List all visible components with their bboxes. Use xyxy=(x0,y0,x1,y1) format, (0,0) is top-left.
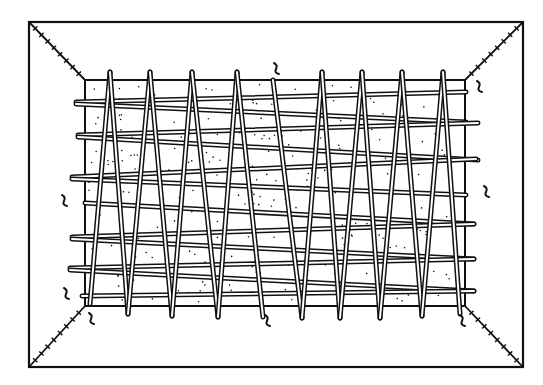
stipple-dot xyxy=(216,174,218,176)
stipple-dot xyxy=(174,148,176,150)
stipple-dot xyxy=(288,144,290,146)
stipple-dot xyxy=(263,135,265,137)
stipple-dot xyxy=(332,85,334,87)
stipple-dot xyxy=(273,236,275,238)
stipple-dot xyxy=(107,164,109,166)
stipple-dot xyxy=(378,234,380,236)
stipple-dot xyxy=(446,274,448,276)
stipple-dot xyxy=(206,152,208,154)
stipple-dot xyxy=(219,160,221,162)
stipple-dot xyxy=(448,278,450,280)
stipple-dot xyxy=(123,191,125,193)
stipple-dot xyxy=(385,158,387,160)
stipple-dot xyxy=(117,275,119,277)
stipple-dot xyxy=(88,189,90,191)
stipple-dot xyxy=(95,151,97,153)
stipple-dot xyxy=(111,245,113,247)
stipple-dot xyxy=(121,299,123,301)
stipple-dot xyxy=(274,134,276,136)
stipple-dot xyxy=(350,86,352,88)
stipple-dot xyxy=(256,103,258,105)
stipple-dot xyxy=(421,207,423,209)
stipple-dot xyxy=(295,207,297,209)
stipple-dot xyxy=(333,100,335,102)
stipple-dot xyxy=(339,148,341,150)
stipple-dot xyxy=(342,237,344,239)
stipple-dot xyxy=(373,101,375,103)
stipple-dot xyxy=(178,290,180,292)
stipple-dot xyxy=(259,196,261,198)
stipple-dot xyxy=(231,256,233,258)
stipple-dot xyxy=(306,179,308,181)
stipple-dot xyxy=(268,151,270,153)
stipple-dot xyxy=(157,227,159,229)
stipple-dot xyxy=(130,155,132,157)
stipple-dot xyxy=(119,115,121,117)
stipple-dot xyxy=(446,216,448,218)
stipple-dot xyxy=(107,160,109,162)
stipple-dot xyxy=(137,238,139,240)
stipple-dot xyxy=(420,230,422,232)
stipple-dot xyxy=(119,88,121,90)
stipple-dot xyxy=(217,237,219,239)
stipple-dot xyxy=(444,154,446,156)
stipple-dot xyxy=(174,220,176,222)
stipple-dot xyxy=(198,301,200,303)
stipple-dot xyxy=(387,173,389,175)
stipple-dot xyxy=(370,98,372,100)
stipple-dot xyxy=(191,160,193,162)
stipple-dot xyxy=(422,141,424,143)
lattice-illustration xyxy=(0,0,543,385)
stipple-dot xyxy=(217,134,219,136)
stipple-dot xyxy=(338,144,340,146)
stipple-dot xyxy=(382,113,384,115)
stipple-dot xyxy=(229,284,231,286)
stipple-dot xyxy=(433,271,435,273)
stipple-dot xyxy=(292,155,294,157)
stipple-dot xyxy=(121,160,123,162)
stipple-dot xyxy=(95,123,97,125)
stipple-dot xyxy=(340,120,342,122)
stipple-dot xyxy=(212,156,214,158)
stipple-dot xyxy=(355,223,357,225)
stipple-dot xyxy=(351,234,353,236)
stipple-dot xyxy=(317,177,319,179)
stipple-dot xyxy=(379,139,381,141)
stipple-dot xyxy=(438,295,440,297)
stipple-dot xyxy=(291,299,293,301)
stipple-dot xyxy=(253,194,255,196)
stipple-dot xyxy=(244,203,246,205)
stipple-dot xyxy=(294,88,296,90)
stipple-dot xyxy=(209,161,211,163)
stipple-dot xyxy=(401,300,403,302)
stipple-dot xyxy=(261,138,263,140)
stipple-dot xyxy=(121,114,123,116)
stipple-dot xyxy=(418,174,420,176)
stipple-dot xyxy=(194,254,196,256)
stipple-dot xyxy=(189,250,191,252)
stipple-dot xyxy=(208,118,210,120)
stipple-dot xyxy=(382,237,384,239)
stipple-dot xyxy=(199,290,201,292)
stipple-dot xyxy=(204,284,206,286)
stipple-dot xyxy=(192,190,194,192)
stipple-dot xyxy=(252,102,254,104)
stipple-dot xyxy=(266,174,268,176)
stipple-dot xyxy=(112,161,114,163)
stipple-dot xyxy=(230,103,232,105)
stipple-dot xyxy=(396,245,398,247)
stipple-dot xyxy=(342,224,344,226)
stipple-dot xyxy=(259,84,261,86)
stipple-dot xyxy=(396,298,398,300)
stipple-dot xyxy=(91,162,93,164)
stipple-dot xyxy=(151,257,153,259)
stipple-dot xyxy=(258,204,260,206)
stipple-dot xyxy=(371,129,373,131)
stipple-dot xyxy=(211,89,213,91)
stipple-dot xyxy=(145,252,147,254)
stipple-dot xyxy=(97,117,99,119)
stipple-dot xyxy=(269,138,271,140)
stipple-dot xyxy=(256,179,258,181)
stipple-dot xyxy=(238,194,240,196)
stipple-dot xyxy=(285,289,287,291)
